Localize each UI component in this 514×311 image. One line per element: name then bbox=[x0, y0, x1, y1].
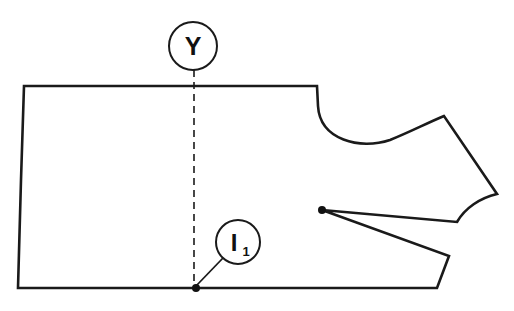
leader-line bbox=[196, 258, 223, 286]
label-i1-marker: I 1 bbox=[216, 220, 260, 264]
pattern-diagram: Y I 1 bbox=[0, 0, 514, 311]
pattern-outline bbox=[18, 86, 497, 288]
label-i1-subscript: 1 bbox=[242, 244, 249, 259]
dart-point-dot bbox=[318, 206, 326, 214]
label-y-marker: Y bbox=[169, 22, 217, 70]
label-y-text: Y bbox=[185, 32, 202, 60]
label-i1-text: I bbox=[231, 229, 238, 256]
hem-point-dot bbox=[192, 284, 200, 292]
